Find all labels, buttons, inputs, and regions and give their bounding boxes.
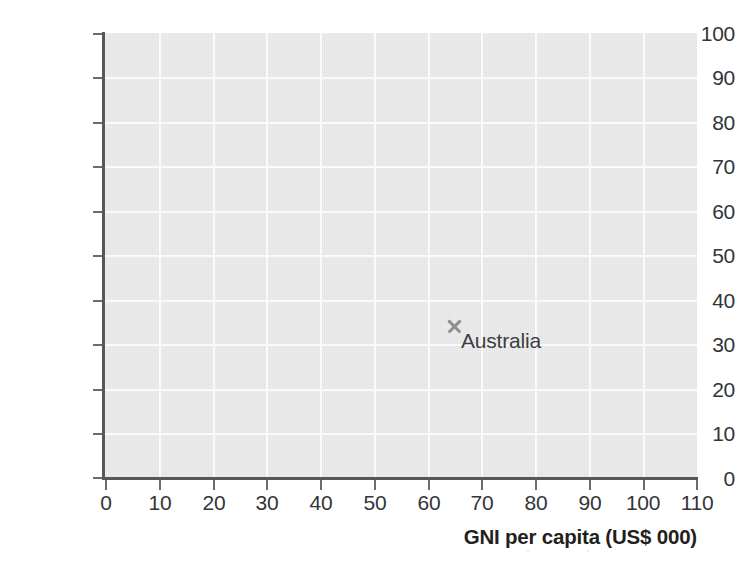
gridline-y-60 [105, 211, 697, 213]
gridline-y-30 [105, 344, 697, 346]
x-tick-label-110: 110 [667, 492, 727, 513]
x-tick-mark-70 [481, 480, 483, 490]
x-tick-mark-50 [374, 480, 376, 490]
gridline-x-100 [643, 33, 645, 478]
x-tick-mark-60 [428, 480, 430, 490]
x-tick-mark-20 [213, 480, 215, 490]
gridline-y-70 [105, 166, 697, 168]
gridline-y-20 [105, 389, 697, 391]
x-tick-mark-80 [535, 480, 537, 490]
gridline-x-50 [374, 33, 376, 478]
x-tick-label-70: 70 [452, 492, 512, 513]
gridline-x-90 [589, 33, 591, 478]
x-axis-line [102, 477, 698, 480]
y-axis-line [102, 32, 105, 479]
x-axis-title: GNI per capita (US$ 000) [337, 525, 697, 549]
x-tick-mark-30 [266, 480, 268, 490]
gridline-y-50 [105, 255, 697, 257]
x-tick-mark-0 [105, 480, 107, 490]
gridline-x-60 [428, 33, 430, 478]
gridline-x-40 [320, 33, 322, 478]
x-tick-mark-40 [320, 480, 322, 490]
gridline-y-10 [105, 433, 697, 435]
gridline-x-10 [159, 33, 161, 478]
x-tick-label-0: 0 [76, 492, 136, 513]
x-tick-label-50: 50 [345, 492, 405, 513]
gridline-y-40 [105, 300, 697, 302]
x-tick-mark-110 [696, 480, 698, 490]
x-tick-mark-100 [643, 480, 645, 490]
x-tick-label-20: 20 [184, 492, 244, 513]
gridline-x-30 [266, 33, 268, 478]
x-tick-label-100: 100 [613, 492, 673, 513]
x-tick-label-10: 10 [130, 492, 190, 513]
scatter-chart-figure: Protected territorial waters (%) 100 90 … [0, 0, 735, 571]
x-tick-label-40: 40 [291, 492, 351, 513]
x-tick-label-30: 30 [237, 492, 297, 513]
scan-artifact [0, 548, 735, 571]
gridline-y-90 [105, 77, 697, 79]
gridline-x-70 [481, 33, 483, 478]
x-tick-label-80: 80 [506, 492, 566, 513]
plot-area: Australia [105, 33, 697, 478]
x-tick-mark-10 [159, 480, 161, 490]
y-axis-title: Protected territorial waters (%) [0, 0, 34, 77]
gridline-x-80 [535, 33, 537, 478]
gridline-y-80 [105, 122, 697, 124]
data-point-label-australia: Australia [461, 330, 541, 351]
x-tick-mark-90 [589, 480, 591, 490]
gridline-x-20 [213, 33, 215, 478]
x-tick-label-60: 60 [399, 492, 459, 513]
x-tick-label-90: 90 [560, 492, 620, 513]
